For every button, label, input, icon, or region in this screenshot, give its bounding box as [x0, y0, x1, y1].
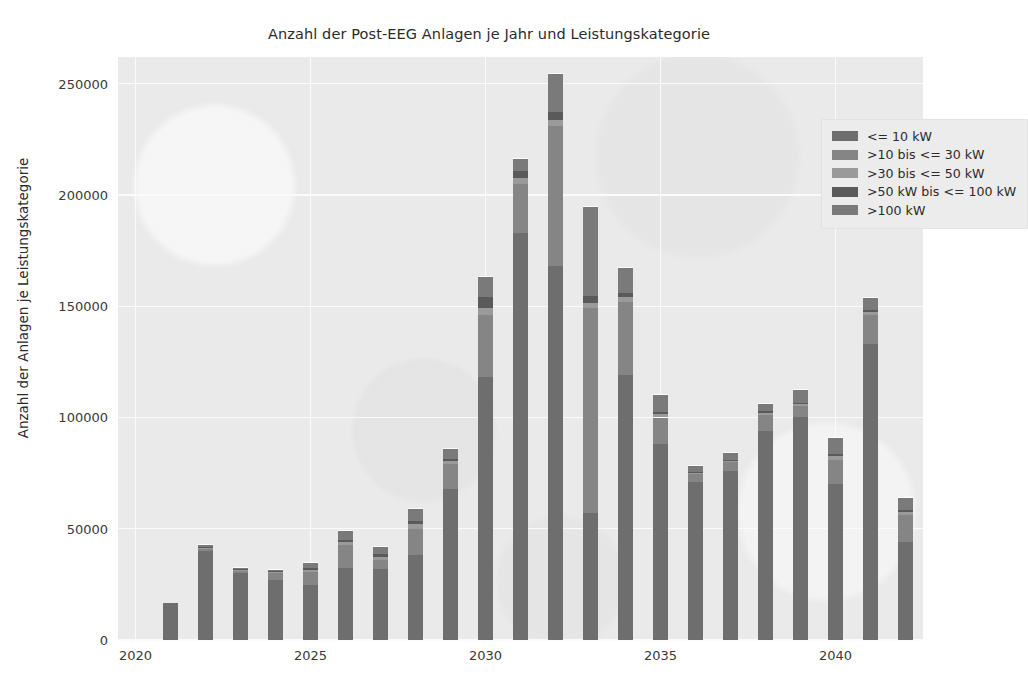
legend-swatch-icon — [832, 150, 858, 160]
bar-segment — [828, 438, 843, 455]
x-tick-label: 2025 — [294, 648, 327, 663]
bar-2038 — [758, 404, 773, 640]
bar-segment — [233, 569, 248, 570]
bar-segment — [793, 417, 808, 640]
bar-segment — [863, 312, 878, 315]
bar-segment — [478, 308, 493, 315]
bar-segment — [408, 509, 423, 521]
bar-segment — [478, 277, 493, 297]
bar-segment — [443, 459, 458, 461]
bar-segment — [758, 411, 773, 413]
bar-2040 — [828, 438, 843, 640]
bar-segment — [268, 570, 283, 572]
bar-segment — [793, 406, 808, 417]
bar-2030 — [478, 277, 493, 640]
y-axis-title: Anzahl der Anlagen je Leistungskategorie — [15, 18, 31, 578]
bar-2025 — [303, 563, 318, 640]
bar-segment — [443, 449, 458, 459]
plot-panel: <= 10 kW>10 bis <= 30 kW>30 bis <= 50 kW… — [118, 57, 923, 640]
y-tick-label: 0 — [100, 633, 108, 648]
bar-segment — [583, 296, 598, 303]
bar-segment — [898, 510, 913, 512]
bar-2034 — [618, 268, 633, 640]
legend-swatch-icon — [832, 205, 858, 215]
bar-segment — [793, 404, 808, 406]
bar-segment — [863, 315, 878, 344]
bar-segment — [478, 315, 493, 377]
bar-segment — [373, 569, 388, 640]
bar-segment — [548, 126, 563, 266]
bar-segment — [688, 482, 703, 640]
bar-2023 — [233, 568, 248, 640]
bar-segment — [653, 395, 668, 412]
bar-segment — [688, 466, 703, 472]
bar-segment — [653, 412, 668, 414]
bar-segment — [828, 456, 843, 459]
bar-segment — [373, 560, 388, 569]
bar-segment — [583, 308, 598, 513]
bar-segment — [653, 414, 668, 417]
legend-item: >100 kW — [832, 201, 1016, 220]
bar-segment — [793, 390, 808, 402]
bar-segment — [548, 74, 563, 112]
bar-segment — [583, 513, 598, 640]
bar-2027 — [373, 547, 388, 640]
bar-segment — [723, 453, 738, 460]
x-axis-tick-labels: 20202025203020352040 — [118, 640, 923, 670]
bar-segment — [233, 571, 248, 573]
bar-2042 — [898, 498, 913, 640]
bar-segment — [723, 461, 738, 462]
bar-segment — [723, 471, 738, 640]
bar-segment — [723, 462, 738, 471]
y-tick-label: 250000 — [58, 76, 108, 91]
legend-item: >50 kW bis <= 100 kW — [832, 183, 1016, 202]
bar-segment — [688, 474, 703, 482]
y-tick-label: 150000 — [58, 299, 108, 314]
bar-segment — [548, 120, 563, 126]
bar-2021 — [163, 603, 178, 640]
bar-segment — [758, 413, 773, 415]
x-tick-label: 2035 — [644, 648, 677, 663]
bar-segment — [513, 171, 528, 179]
gridline-vertical — [135, 57, 136, 640]
gridline-vertical — [310, 57, 311, 640]
bar-2039 — [793, 390, 808, 640]
legend: <= 10 kW>10 bis <= 30 kW>30 bis <= 50 kW… — [821, 119, 1028, 229]
bar-2024 — [268, 570, 283, 640]
bar-segment — [198, 547, 213, 548]
bar-2029 — [443, 449, 458, 640]
bar-segment — [233, 570, 248, 571]
bar-2028 — [408, 509, 423, 640]
bar-segment — [723, 460, 738, 461]
bar-segment — [898, 542, 913, 640]
y-tick-label: 100000 — [58, 410, 108, 425]
legend-label: >50 kW bis <= 100 kW — [867, 184, 1016, 199]
bar-segment — [233, 568, 248, 570]
bar-segment — [408, 521, 423, 524]
bar-segment — [583, 303, 598, 309]
bar-segment — [408, 524, 423, 528]
bar-segment — [828, 460, 843, 484]
legend-item: <= 10 kW — [832, 127, 1016, 146]
bar-2026 — [338, 531, 353, 640]
bar-2037 — [723, 453, 738, 640]
bar-segment — [513, 178, 528, 184]
bar-segment — [863, 310, 878, 312]
bar-segment — [583, 207, 598, 296]
bar-segment — [513, 233, 528, 640]
x-tick-label: 2020 — [119, 648, 152, 663]
bar-segment — [303, 572, 318, 585]
bar-segment — [268, 571, 283, 572]
bar-2036 — [688, 466, 703, 640]
bar-segment — [548, 112, 563, 121]
bar-segment — [408, 529, 423, 556]
bar-segment — [863, 298, 878, 309]
bar-segment — [653, 418, 668, 445]
bar-segment — [198, 545, 213, 547]
bar-segment — [898, 512, 913, 515]
bar-segment — [513, 184, 528, 233]
bar-segment — [863, 344, 878, 640]
bar-segment — [618, 297, 633, 301]
bar-segment — [373, 557, 388, 560]
